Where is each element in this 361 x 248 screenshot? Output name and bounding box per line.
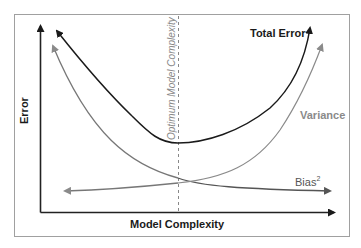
- bias-variance-chart: Total Error Variance Bias2 Model Complex…: [0, 0, 361, 248]
- bias-label: Bias2: [295, 175, 320, 188]
- chart-frame: [15, 15, 350, 237]
- bias-curve-left: [53, 46, 178, 178]
- variance-label: Variance: [300, 109, 345, 121]
- x-axis-label: Model Complexity: [130, 218, 225, 230]
- total-error-curve-left: [57, 31, 132, 116]
- total-error-label: Total Error: [250, 27, 306, 39]
- y-axis-label: Error: [18, 96, 30, 124]
- variance-curve-left: [65, 183, 178, 191]
- bias-label-text: Bias: [295, 176, 317, 188]
- bias-label-superscript: 2: [316, 175, 320, 182]
- optimum-label: Optimum Model Complexity: [166, 16, 177, 140]
